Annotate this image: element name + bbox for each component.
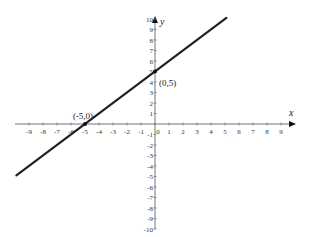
y-tick-label: -4 — [147, 163, 153, 171]
x-tick-label: 9 — [279, 128, 283, 136]
y-tick-label: -9 — [147, 215, 153, 223]
y-tick-label: 10 — [146, 16, 154, 24]
point-marker — [83, 122, 87, 126]
y-tick-label: 9 — [150, 26, 154, 34]
x-tick-label: -9 — [26, 128, 32, 136]
y-tick-label: 8 — [150, 37, 154, 45]
point-label: (-5,0) — [73, 111, 93, 121]
y-tick-label: 6 — [150, 58, 154, 66]
x-tick-label: 3 — [195, 128, 199, 136]
x-tick-label: 5 — [223, 128, 227, 136]
y-tick-label: -3 — [147, 152, 153, 160]
y-tick-label: 7 — [150, 47, 154, 55]
x-tick-label: -3 — [110, 128, 116, 136]
y-axis-label: y — [159, 16, 165, 27]
x-tick-label: -7 — [54, 128, 60, 136]
coordinate-plane: -9-8-7-6-5-4-3-2-10123456789-10-9-8-7-6-… — [0, 0, 310, 237]
y-tick-label: 2 — [150, 100, 154, 108]
x-tick-label: -8 — [40, 128, 46, 136]
x-tick-label: 8 — [265, 128, 269, 136]
x-tick-label: 0 — [156, 128, 160, 136]
y-tick-label: 4 — [150, 79, 154, 87]
y-tick-label: -8 — [147, 205, 153, 213]
y-tick-label: -10 — [144, 226, 154, 234]
x-tick-label: -4 — [96, 128, 102, 136]
y-tick-label: 3 — [150, 89, 154, 97]
x-tick-label: -1 — [138, 128, 144, 136]
point-marker — [153, 70, 157, 74]
x-tick-label: 6 — [237, 128, 241, 136]
x-tick-label: 4 — [209, 128, 213, 136]
y-tick-label: -2 — [147, 142, 153, 150]
y-tick-label: -1 — [147, 131, 153, 139]
x-tick-label: 1 — [167, 128, 171, 136]
y-tick-label: -7 — [147, 194, 153, 202]
labeled-points: (-5,0)(0,5) — [73, 70, 176, 127]
x-axis-arrow-icon — [289, 121, 296, 127]
x-axis-label: x — [288, 107, 294, 118]
y-tick-label: -5 — [147, 173, 153, 181]
plotted-line — [16, 18, 226, 176]
x-tick-label: -2 — [124, 128, 130, 136]
point-label: (0,5) — [159, 78, 176, 88]
x-tick-label: 7 — [251, 128, 255, 136]
y-tick-label: -6 — [147, 184, 153, 192]
y-tick-label: 1 — [150, 110, 154, 118]
line-series — [16, 18, 226, 176]
x-tick-label: 2 — [181, 128, 185, 136]
x-tick-label: -5 — [82, 128, 88, 136]
